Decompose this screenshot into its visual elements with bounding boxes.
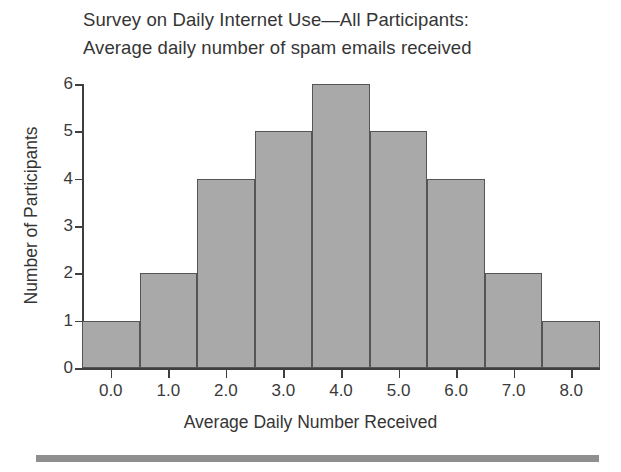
y-tick-label: 2 <box>64 263 73 283</box>
x-axis-title: Average Daily Number Received <box>0 412 621 433</box>
y-tick-mark <box>75 368 82 370</box>
x-tick-label: 2.0 <box>214 381 238 401</box>
histogram-bar <box>255 131 313 368</box>
plot-area: 0123456 0.01.02.03.04.05.06.07.08.0 <box>82 84 600 368</box>
histogram-bar <box>312 84 370 368</box>
y-tick-mark <box>75 321 82 323</box>
x-tick-mark <box>571 369 573 378</box>
y-tick-mark <box>75 84 82 86</box>
x-tick-label: 8.0 <box>559 381 583 401</box>
chart-title-line-1: Survey on Daily Internet Use—All Partici… <box>83 6 583 34</box>
x-tick-mark <box>226 369 228 378</box>
histogram-bar <box>197 179 255 368</box>
bars-layer <box>82 84 600 368</box>
footer-rule <box>36 455 599 462</box>
y-tick-mark <box>75 131 82 133</box>
x-tick-label: 3.0 <box>272 381 296 401</box>
x-tick-mark <box>514 369 516 378</box>
x-tick-label: 7.0 <box>502 381 526 401</box>
y-tick-mark <box>75 179 82 181</box>
y-tick-mark <box>75 273 82 275</box>
histogram-bar <box>370 131 428 368</box>
chart-title-line-2: Average daily number of spam emails rece… <box>83 34 583 62</box>
x-tick-mark <box>456 369 458 378</box>
x-tick-mark <box>283 369 285 378</box>
y-tick-label: 4 <box>64 169 73 189</box>
histogram-bar <box>542 321 600 368</box>
x-tick-mark <box>341 369 343 378</box>
x-tick-label: 4.0 <box>329 381 353 401</box>
y-tick-label: 3 <box>64 216 73 236</box>
histogram-bar <box>427 179 485 368</box>
histogram-bar <box>140 273 198 368</box>
x-tick-mark <box>168 369 170 378</box>
x-tick-mark <box>399 369 401 378</box>
y-axis-title: Number of Participants <box>21 86 42 346</box>
y-tick-mark <box>75 226 82 228</box>
histogram-bar <box>82 321 140 368</box>
chart-title: Survey on Daily Internet Use—All Partici… <box>83 6 583 62</box>
x-tick-label: 1.0 <box>157 381 181 401</box>
y-tick-label: 1 <box>64 311 73 331</box>
x-tick-label: 5.0 <box>387 381 411 401</box>
y-tick-label: 0 <box>64 358 73 378</box>
x-tick-label: 6.0 <box>444 381 468 401</box>
histogram-bar <box>485 273 543 368</box>
x-tick-mark <box>111 369 113 378</box>
y-tick-label: 6 <box>64 74 73 94</box>
y-tick-label: 5 <box>64 121 73 141</box>
x-tick-label: 0.0 <box>99 381 123 401</box>
histogram-figure: Survey on Daily Internet Use—All Partici… <box>0 0 621 472</box>
